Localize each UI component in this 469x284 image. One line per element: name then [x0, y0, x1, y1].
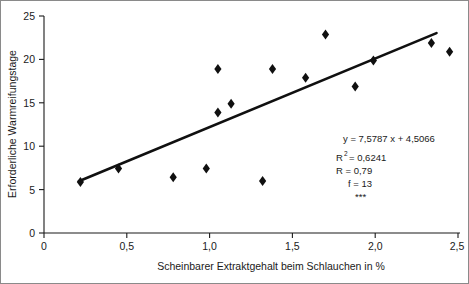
- data-point: [203, 164, 210, 174]
- data-point: [228, 99, 235, 109]
- x-tick-label-1.0: 1,0: [202, 240, 217, 252]
- y-tick-label-0: 0: [29, 227, 35, 239]
- x-tick-label-2.0: 2,0: [368, 240, 383, 252]
- y-tick-label-5: 5: [29, 184, 35, 196]
- data-point: [269, 64, 276, 74]
- y-axis-title: Erforderliche Warmreifungstage: [6, 50, 18, 198]
- chart-figure: 0 5 10 15 20 25 0 0,5 1,0 1,5 2,0 2,5 Sc…: [0, 0, 469, 284]
- y-axis-ticks: [39, 16, 44, 233]
- data-points: [77, 29, 453, 187]
- r-value: R = 0,79: [336, 165, 372, 176]
- data-point: [214, 108, 221, 118]
- data-point: [446, 47, 453, 57]
- scatter-plot: 0 5 10 15 20 25 0 0,5 1,0 1,5 2,0 2,5 Sc…: [0, 0, 469, 284]
- r-squared-exponent: 2: [344, 150, 348, 157]
- y-tick-label-15: 15: [23, 97, 35, 109]
- data-point: [322, 29, 329, 39]
- x-axis-title: Scheinbarer Extraktgehalt beim Schlauche…: [157, 260, 385, 272]
- data-point: [214, 64, 221, 74]
- data-point: [302, 73, 309, 83]
- regression-equation: y = 7,5787 x + 4,5066: [343, 133, 435, 144]
- x-tick-label-2.5: 2,5: [450, 240, 465, 252]
- x-tick-label-0: 0: [41, 240, 47, 252]
- r-squared-symbol: R: [336, 152, 343, 163]
- y-tick-label-25: 25: [23, 10, 35, 22]
- x-axis-ticks: [44, 233, 458, 238]
- degrees-of-freedom: f = 13: [348, 178, 372, 189]
- significance-stars: ***: [355, 191, 366, 202]
- data-point: [170, 172, 177, 182]
- statistics-annotation: y = 7,5787 x + 4,5066 R 2 = 0,6241 R = 0…: [336, 133, 435, 202]
- x-tick-label-1.5: 1,5: [285, 240, 300, 252]
- data-point: [259, 176, 266, 186]
- y-tick-label-10: 10: [23, 140, 35, 152]
- r-squared-value: = 0,6241: [349, 152, 386, 163]
- x-tick-label-0.5: 0,5: [119, 240, 134, 252]
- data-point: [428, 38, 435, 48]
- data-point: [352, 82, 359, 92]
- y-tick-label-20: 20: [23, 53, 35, 65]
